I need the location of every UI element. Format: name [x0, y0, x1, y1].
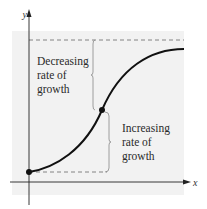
svg-text:growth: growth: [37, 83, 70, 96]
svg-text:Decreasing: Decreasing: [37, 55, 89, 68]
svg-text:growth: growth: [122, 150, 155, 163]
y-axis-arrow-icon: [27, 9, 32, 17]
x-axis-arrow-icon: [183, 180, 191, 185]
initial-point: [26, 169, 32, 175]
inflection-point: [99, 107, 105, 113]
logistic-growth-diagram: y x Decreasing rate of growth Increasing…: [0, 0, 207, 209]
svg-text:Increasing: Increasing: [122, 122, 170, 135]
x-axis-label: x: [192, 177, 198, 188]
svg-text:rate of: rate of: [122, 136, 152, 148]
y-axis-label: y: [22, 9, 28, 20]
svg-text:rate of: rate of: [37, 69, 67, 81]
